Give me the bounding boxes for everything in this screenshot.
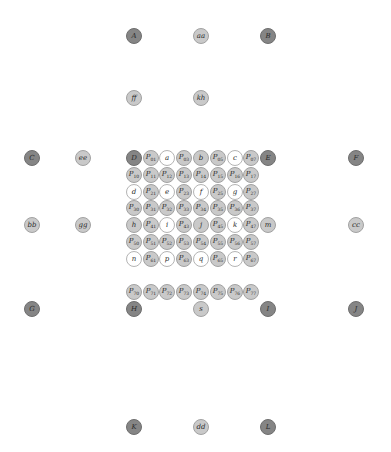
node-label-subscript: 70 xyxy=(133,291,139,296)
node-label-main: H xyxy=(131,305,137,313)
node-label-subscript: 67 xyxy=(250,258,256,263)
node-label: L xyxy=(266,424,271,431)
node-label-subscript: 10 xyxy=(133,174,139,179)
node-label-main: s xyxy=(199,305,203,313)
node-label-main: kh xyxy=(197,94,206,102)
node-label: D xyxy=(131,155,137,162)
node-p70: P70 xyxy=(126,284,142,300)
node-p52: P52 xyxy=(159,234,175,250)
node-label: P01 xyxy=(146,154,156,162)
node-p25: P25 xyxy=(210,184,226,200)
node-label: P53 xyxy=(179,238,189,246)
node-label: I xyxy=(267,306,270,313)
node-label-subscript: 33 xyxy=(183,207,189,212)
node-p72: P72 xyxy=(159,284,175,300)
node-ff: ff xyxy=(126,90,142,106)
node-label-subscript: 25 xyxy=(217,191,223,196)
node-label: P07 xyxy=(246,154,256,162)
node-label: E xyxy=(265,155,270,162)
node-label-main: aa xyxy=(197,32,205,40)
node-label: kh xyxy=(197,95,206,102)
node-label: C xyxy=(29,155,34,162)
node-label: P11 xyxy=(146,171,156,179)
node-label-main: d xyxy=(132,188,136,196)
node-p51: P51 xyxy=(143,234,159,250)
node-label: B xyxy=(265,33,270,40)
node-label: P51 xyxy=(146,238,156,246)
node-label: P50 xyxy=(129,238,139,246)
node-label: P10 xyxy=(129,171,139,179)
node-k: K xyxy=(126,419,142,435)
node-label: P77 xyxy=(246,288,256,296)
node-kh: kh xyxy=(193,90,209,106)
node-label-main: j xyxy=(200,221,202,229)
node-p76: P76 xyxy=(227,284,243,300)
node-label-subscript: 65 xyxy=(217,258,223,263)
node-label: P05 xyxy=(213,154,223,162)
node-label-main: g xyxy=(233,188,237,196)
node-bb: bb xyxy=(24,217,40,233)
node-label: P47 xyxy=(246,221,256,229)
node-p07: P07 xyxy=(243,150,259,166)
node-label-subscript: 31 xyxy=(150,207,156,212)
node-q: q xyxy=(193,251,209,267)
node-label: P55 xyxy=(213,238,223,246)
node-label-subscript: 21 xyxy=(150,191,156,196)
node-label-subscript: 15 xyxy=(217,174,223,179)
node-j: j xyxy=(193,217,209,233)
node-label: q xyxy=(199,256,203,263)
node-dd: dd xyxy=(193,419,209,435)
node-label-main: L xyxy=(266,423,271,431)
node-p74: P74 xyxy=(193,284,209,300)
node-label: P30 xyxy=(129,204,139,212)
node-p: p xyxy=(159,251,175,267)
node-label: P61 xyxy=(146,255,156,263)
node-label: p xyxy=(165,256,169,263)
node-label: P34 xyxy=(196,204,206,212)
node-label-main: J xyxy=(355,305,358,313)
node-p50: P50 xyxy=(126,234,142,250)
node-cc: cc xyxy=(348,217,364,233)
node-label-main: p xyxy=(165,255,169,263)
node-g: g xyxy=(227,184,243,200)
node-label: k xyxy=(233,222,237,229)
node-label: P33 xyxy=(179,204,189,212)
node-b: B xyxy=(260,28,276,44)
node-label: P27 xyxy=(246,188,256,196)
node-label-subscript: 14 xyxy=(200,174,206,179)
node-label-subscript: 16 xyxy=(234,174,240,179)
node-label: P76 xyxy=(230,288,240,296)
node-p43: P43 xyxy=(176,217,192,233)
node-label-subscript: 07 xyxy=(250,157,256,162)
node-label: P23 xyxy=(179,188,189,196)
node-label: h xyxy=(132,222,137,229)
node-p27: P27 xyxy=(243,184,259,200)
node-label: A xyxy=(131,33,136,40)
node-p17: P17 xyxy=(243,167,259,183)
node-label-subscript: 36 xyxy=(234,207,240,212)
node-label-main: D xyxy=(131,154,137,162)
node-label-subscript: 52 xyxy=(166,241,172,246)
node-label-subscript: 63 xyxy=(183,258,189,263)
node-label-subscript: 61 xyxy=(150,258,156,263)
node-p14: P14 xyxy=(193,167,209,183)
node-d: d xyxy=(126,184,142,200)
node-e: e xyxy=(159,184,175,200)
node-c: c xyxy=(227,150,243,166)
node-p41: P41 xyxy=(143,217,159,233)
node-label: P74 xyxy=(196,288,206,296)
node-label-subscript: 76 xyxy=(234,291,240,296)
node-p31: P31 xyxy=(143,200,159,216)
node-p45: P45 xyxy=(210,217,226,233)
node-p30: P30 xyxy=(126,200,142,216)
node-label: P56 xyxy=(230,238,240,246)
node-label-subscript: 34 xyxy=(200,207,206,212)
node-label-main: r xyxy=(233,255,236,263)
node-label: P70 xyxy=(129,288,139,296)
node-f: F xyxy=(348,150,364,166)
node-label: J xyxy=(355,306,358,313)
node-label: a xyxy=(165,155,169,162)
node-label-subscript: 35 xyxy=(217,207,223,212)
node-label-main: h xyxy=(132,221,137,229)
node-label-subscript: 57 xyxy=(250,241,256,246)
